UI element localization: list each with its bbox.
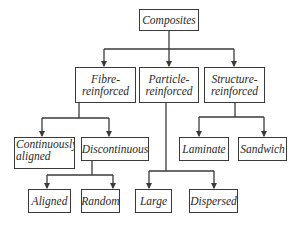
node-discontinuous: Discontinuous [81,137,149,161]
node-random: Random [81,189,120,213]
node-aligned-label: Aligned [32,195,68,207]
node-aligned: Aligned [28,189,71,213]
node-particle-line2: reinforced [145,85,192,97]
node-discontinuous-label: Discontinuous [82,143,148,155]
node-random-label: Random [81,195,119,207]
composites-classification-diagram: Composites Fibre- reinforced Particle- r… [0,0,298,226]
node-sandwich-label: Sandwich [240,143,285,155]
node-sandwich: Sandwich [238,137,287,161]
node-laminate-label: Laminate [182,143,225,155]
node-structure-line1: Structure- [211,73,257,85]
node-large: Large [135,189,172,213]
node-particle-reinforced: Particle- reinforced [139,67,199,103]
node-fibre-reinforced: Fibre- reinforced [75,67,136,103]
node-particle-line1: Particle- [149,73,190,85]
node-dispersed-label: Dispersed [190,195,237,207]
node-composites-label: Composites [142,14,196,26]
node-large-label: Large [140,195,167,207]
node-continuously-aligned: Continuously aligned [14,137,75,169]
node-fibre-line1: Fibre- [91,73,120,85]
node-structure-line2: reinforced [211,85,258,97]
node-continuously-line2: aligned [16,150,51,162]
node-laminate: Laminate [179,137,229,161]
node-fibre-line2: reinforced [82,85,129,97]
node-dispersed: Dispersed [189,189,238,213]
node-composites: Composites [139,9,199,31]
node-continuously-line1: Continuously [16,138,75,150]
node-structure-reinforced: Structure- reinforced [204,67,265,103]
